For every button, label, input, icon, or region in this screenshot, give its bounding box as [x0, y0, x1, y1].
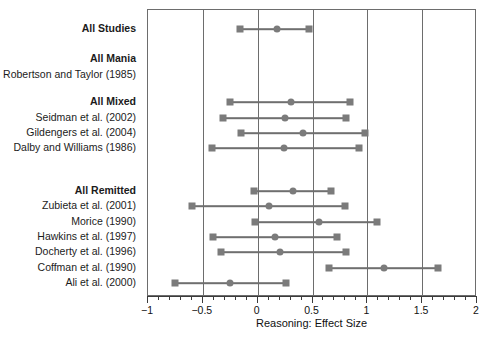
ci-lower-cap — [188, 203, 195, 210]
effect-size-point — [380, 265, 387, 272]
ci-upper-cap — [343, 249, 350, 256]
effect-size-point — [272, 234, 279, 241]
ci-lower-cap — [219, 115, 226, 122]
study-label: Robertson and Taylor (1985) — [3, 69, 136, 80]
x-tick — [180, 296, 181, 300]
forest-row — [148, 96, 475, 108]
x-tick — [432, 296, 433, 300]
study-label: Zubieta et al. (2001) — [42, 200, 136, 211]
forest-row — [148, 216, 475, 228]
x-tick — [147, 296, 148, 303]
x-tick — [279, 296, 280, 300]
forest-row — [148, 185, 475, 197]
forest-row — [148, 142, 475, 154]
forest-row — [148, 277, 475, 289]
forest-row — [148, 23, 475, 35]
ci-lower-cap — [251, 188, 258, 195]
ci-lower-cap — [218, 249, 225, 256]
x-tick — [454, 296, 455, 300]
x-tick — [388, 296, 389, 300]
x-tick — [290, 296, 291, 300]
effect-size-point — [299, 130, 306, 137]
study-label: Seidman et al. (2002) — [36, 112, 136, 123]
ci-upper-cap — [362, 130, 369, 137]
x-tick — [235, 296, 236, 300]
x-tick — [202, 296, 203, 303]
ci-lower-cap — [209, 234, 216, 241]
ci-lower-cap — [325, 265, 332, 272]
study-label-column: All StudiesAll ManiaRobertson and Taylor… — [0, 0, 142, 300]
x-tick — [158, 296, 159, 300]
ci-upper-cap — [346, 99, 353, 106]
ci-upper-cap — [434, 265, 441, 272]
study-label: Docherty et al. (1996) — [35, 246, 136, 257]
ci-upper-cap — [333, 234, 340, 241]
x-tick — [246, 296, 247, 300]
ci-upper-cap — [342, 203, 349, 210]
group-label: All Mixed — [90, 96, 136, 107]
ci-lower-cap — [172, 280, 179, 287]
effect-size-point — [227, 280, 234, 287]
x-tick-label: 1 — [363, 304, 369, 316]
x-tick — [355, 296, 356, 300]
ci-upper-cap — [283, 280, 290, 287]
x-tick-label: −0.5 — [191, 304, 212, 316]
forest-plot-figure: All StudiesAll ManiaRobertson and Taylor… — [0, 0, 493, 344]
forest-row — [148, 231, 475, 243]
effect-size-point — [289, 188, 296, 195]
ci-lower-cap — [208, 145, 215, 152]
effect-size-point — [265, 203, 272, 210]
x-tick-label: 0 — [254, 304, 260, 316]
forest-row — [148, 112, 475, 124]
study-label: Morice (1990) — [71, 216, 136, 227]
ci-lower-cap — [237, 26, 244, 33]
x-tick — [476, 296, 477, 303]
forest-row — [148, 262, 475, 274]
x-tick — [312, 296, 313, 303]
x-tick — [268, 296, 269, 300]
group-label: All Studies — [82, 23, 136, 34]
effect-size-point — [316, 219, 323, 226]
ci-upper-cap — [306, 26, 313, 33]
effect-size-point — [274, 26, 281, 33]
x-tick — [377, 296, 378, 300]
x-axis: −1−0.500.511.52 — [147, 296, 476, 297]
x-tick — [191, 296, 192, 300]
study-label: Gildengers et al. (2004) — [26, 127, 136, 138]
x-tick — [333, 296, 334, 300]
forest-row — [148, 200, 475, 212]
x-tick-label: 0.5 — [304, 304, 319, 316]
x-tick — [224, 296, 225, 300]
confidence-interval-line — [221, 251, 346, 253]
plot-area — [147, 9, 476, 296]
x-axis-title: Reasoning: Effect Size — [147, 317, 476, 329]
x-tick — [344, 296, 345, 300]
study-label: Hawkins et al. (1997) — [37, 231, 136, 242]
x-tick-label: 1.5 — [414, 304, 429, 316]
x-tick — [410, 296, 411, 300]
x-tick — [301, 296, 302, 300]
study-label: Coffman et al. (1990) — [38, 262, 136, 273]
x-tick — [169, 296, 170, 300]
ci-upper-cap — [355, 145, 362, 152]
x-tick — [366, 296, 367, 303]
study-label: Dalby and Williams (1986) — [13, 142, 136, 153]
x-tick — [421, 296, 422, 303]
effect-size-point — [280, 145, 287, 152]
group-label: All Mania — [90, 53, 136, 64]
forest-row — [148, 127, 475, 139]
effect-size-point — [287, 99, 294, 106]
x-tick — [465, 296, 466, 300]
group-label: All Remitted — [75, 185, 136, 196]
x-tick — [257, 296, 258, 303]
study-label: Ali et al. (2000) — [65, 277, 136, 288]
ci-upper-cap — [343, 115, 350, 122]
x-tick — [322, 296, 323, 300]
ci-upper-cap — [374, 219, 381, 226]
x-tick — [213, 296, 214, 300]
x-tick — [399, 296, 400, 300]
x-tick — [443, 296, 444, 300]
x-tick-label: 2 — [473, 304, 479, 316]
x-tick-label: −1 — [141, 304, 153, 316]
forest-row — [148, 246, 475, 258]
